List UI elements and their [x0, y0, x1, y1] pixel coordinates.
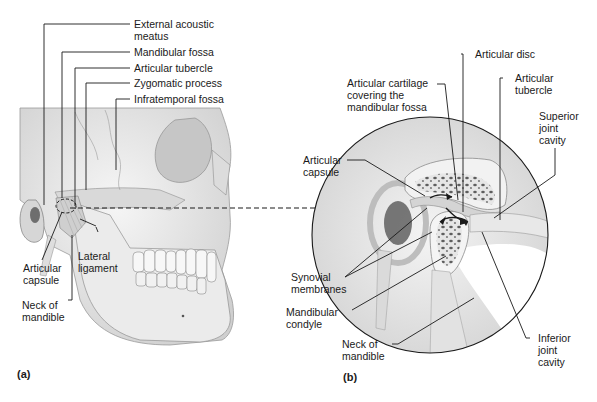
label-neck-of-mandible-a: Neck of mandible: [22, 299, 65, 323]
label-line: Inferior: [538, 332, 571, 344]
label-line: Neck of: [22, 299, 65, 311]
label-line: mandible: [342, 350, 385, 362]
label-synovial-membranes: Synovial membranes: [291, 271, 346, 295]
label-line: meatus: [134, 30, 214, 42]
label-line: Synovial: [291, 271, 346, 283]
panel-tag-b: (b): [343, 371, 357, 383]
label-line: mandibular fossa: [347, 101, 428, 113]
label-inferior-joint-cavity: Inferior joint cavity: [538, 332, 571, 368]
label-line: condyle: [286, 318, 338, 330]
panel-tag-a: (a): [17, 368, 30, 380]
label-articular-capsule-b: Articular capsule: [303, 154, 342, 178]
label-articular-tubercle-b: Articular tubercle: [515, 72, 554, 96]
label-line: Articular: [303, 154, 342, 166]
tmj-cross-section: [312, 117, 560, 360]
label-articular-tubercle: Articular tubercle: [134, 62, 213, 74]
label-line: tubercle: [515, 84, 554, 96]
label-mandibular-condyle: Mandibular condyle: [286, 306, 338, 330]
label-line: Mandibular: [286, 306, 338, 318]
tmj-figure: External acoustic meatus Mandibular foss…: [0, 0, 597, 402]
label-line: membranes: [291, 283, 346, 295]
label-line: capsule: [23, 274, 62, 286]
label-line: joint: [538, 344, 571, 356]
label-line: cavity: [538, 356, 571, 368]
label-articular-capsule-a: Articular capsule: [23, 262, 62, 286]
label-line: cavity: [539, 134, 579, 146]
label-line: mandible: [22, 311, 65, 323]
label-line: Neck of: [342, 338, 385, 350]
label-line: Articular: [515, 72, 554, 84]
label-line: joint: [539, 122, 579, 134]
label-articular-cartilage: Articular cartilage covering the mandibu…: [347, 77, 428, 113]
label-line: covering the: [347, 89, 428, 101]
label-articular-disc: Articular disc: [475, 48, 535, 60]
label-line: External acoustic: [134, 18, 214, 30]
label-line: Superior: [539, 110, 579, 122]
label-infratemporal-fossa: Infratemporal fossa: [134, 93, 224, 105]
tmj-illustration: [0, 0, 597, 402]
label-mandibular-fossa: Mandibular fossa: [134, 46, 214, 58]
label-line: Articular cartilage: [347, 77, 428, 89]
label-line: ligament: [78, 262, 118, 274]
label-line: Lateral: [78, 250, 118, 262]
label-external-acoustic-meatus: External acoustic meatus: [134, 18, 214, 42]
label-zygomatic-process: Zygomatic process: [134, 77, 222, 89]
label-lateral-ligament: Lateral ligament: [78, 250, 118, 274]
label-line: capsule: [303, 166, 342, 178]
label-superior-joint-cavity: Superior joint cavity: [539, 110, 579, 146]
label-neck-of-mandible-b: Neck of mandible: [342, 338, 385, 362]
label-line: Articular: [23, 262, 62, 274]
